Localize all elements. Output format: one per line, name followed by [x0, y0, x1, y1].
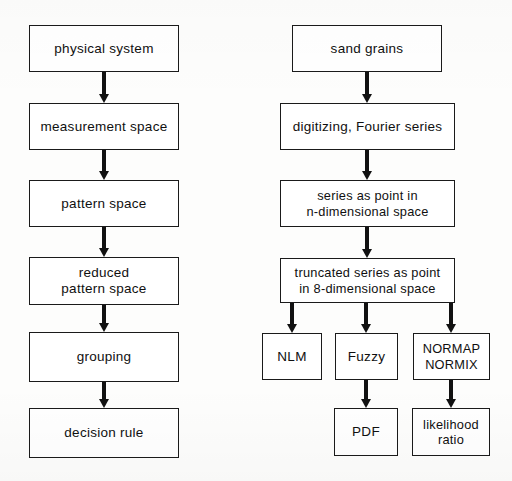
arrow-shaft [102, 72, 105, 95]
node-series-n-dimensional-space: series as point in n-dimensional space [280, 180, 455, 227]
arrow-head [362, 171, 372, 180]
arrow-head [99, 323, 109, 332]
arrow-shaft [102, 305, 105, 324]
node-pattern-space: pattern space [29, 180, 179, 227]
arrow-shaft [365, 227, 368, 250]
node-normap-normix: NORMAP NORMIX [413, 333, 490, 380]
arrow-head [361, 324, 371, 333]
node-label: NLM [273, 349, 310, 365]
arrow-shaft [365, 72, 368, 95]
arrow-shaft [102, 227, 105, 249]
arrow-sand-grains-to-digitizing-fourier [362, 72, 372, 103]
arrow-digitizing-fourier-to-series-n-dim [362, 150, 372, 180]
node-label: measurement space [37, 119, 172, 135]
node-digitizing-fourier: digitizing, Fourier series [280, 103, 455, 150]
arrow-truncated-to-fuzzy [361, 303, 371, 333]
arrow-shaft [364, 380, 367, 400]
flowchart-figure: physical system measurement space patter… [0, 0, 512, 481]
arrow-series-n-dim-to-truncated-8-dim [362, 227, 372, 258]
arrow-truncated-to-nlm [287, 303, 297, 333]
arrow-head [99, 248, 109, 257]
arrow-shaft [102, 382, 105, 400]
arrow-head [446, 399, 456, 408]
node-label: Fuzzy [344, 349, 389, 365]
arrow-shaft [364, 303, 367, 325]
arrow-head [361, 399, 371, 408]
arrow-head [362, 94, 372, 103]
node-truncated-8-dimensional-space: truncated series as point in 8-dimension… [280, 258, 455, 303]
arrow-shaft [449, 380, 452, 400]
arrow-physical-system-to-measurement-space [99, 72, 109, 103]
arrow-normap-normix-to-likelihood-ratio [446, 380, 456, 408]
arrow-measurement-space-to-pattern-space [99, 150, 109, 180]
node-label: pattern space [57, 196, 150, 212]
node-decision-rule: decision rule [29, 408, 179, 458]
node-physical-system: physical system [29, 25, 179, 72]
arrow-head [99, 399, 109, 408]
arrow-head [287, 324, 297, 333]
node-nlm: NLM [262, 333, 322, 380]
node-reduced-pattern-space: reduced pattern space [29, 257, 179, 305]
node-label: NORMAP NORMIX [419, 341, 485, 371]
node-label: grouping [73, 349, 136, 365]
arrow-shaft [102, 150, 105, 172]
arrow-head [446, 324, 456, 333]
arrow-shaft [365, 150, 368, 172]
arrow-reduced-pattern-space-to-grouping [99, 305, 109, 332]
node-sand-grains: sand grains [292, 25, 442, 72]
node-measurement-space: measurement space [29, 103, 179, 150]
node-label: likelihood ratio [419, 417, 483, 447]
arrow-grouping-to-decision-rule [99, 382, 109, 408]
node-label: truncated series as point in 8-dimension… [291, 265, 445, 295]
node-pdf: PDF [334, 408, 398, 456]
node-label: reduced pattern space [57, 265, 150, 297]
node-likelihood-ratio: likelihood ratio [412, 408, 490, 456]
node-label: series as point in n-dimensional space [302, 188, 432, 218]
node-label: sand grains [327, 41, 408, 57]
arrow-head [99, 171, 109, 180]
arrow-shaft [449, 303, 452, 325]
node-label: decision rule [60, 425, 147, 441]
arrow-fuzzy-to-pdf [361, 380, 371, 408]
node-label: PDF [348, 424, 384, 440]
arrow-shaft [290, 303, 293, 325]
node-fuzzy: Fuzzy [335, 333, 398, 380]
arrow-head [362, 249, 372, 258]
node-label: digitizing, Fourier series [289, 119, 447, 135]
arrow-pattern-space-to-reduced-pattern-space [99, 227, 109, 257]
arrow-truncated-to-normap-normix [446, 303, 456, 333]
node-grouping: grouping [29, 332, 179, 382]
node-label: physical system [50, 41, 157, 57]
arrow-head [99, 94, 109, 103]
